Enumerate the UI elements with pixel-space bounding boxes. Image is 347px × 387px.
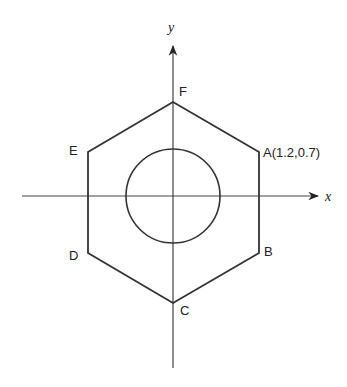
vertex-label-f: F — [179, 84, 187, 99]
y-axis-label: y — [166, 20, 175, 35]
vertex-label-e: E — [69, 143, 78, 158]
vertex-label-c: C — [180, 303, 189, 318]
vertex-label-b: B — [264, 244, 273, 259]
diagram-canvas: y x A(1.2,0.7) B C D E F — [0, 0, 347, 387]
vertex-label-d: D — [69, 248, 78, 263]
vertex-label-a: A(1.2,0.7) — [263, 145, 320, 160]
x-axis-label: x — [324, 189, 332, 204]
